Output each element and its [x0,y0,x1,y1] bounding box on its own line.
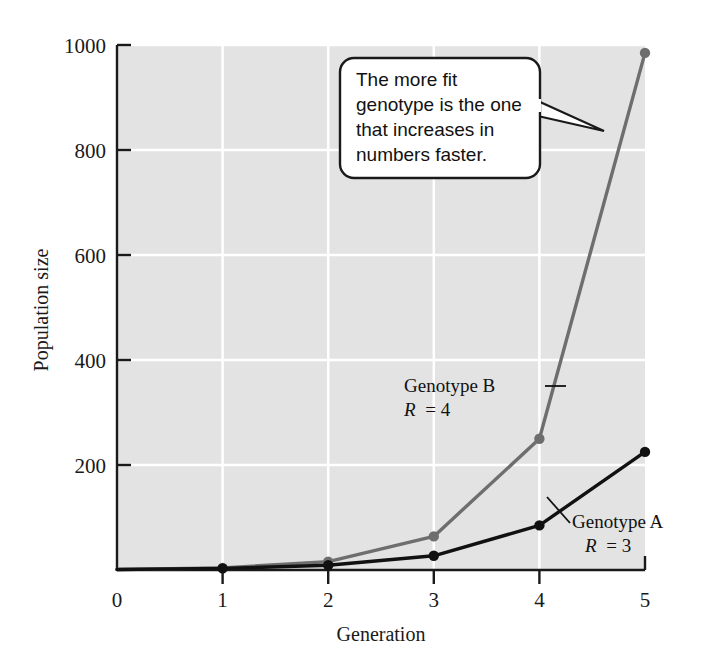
genotype-a-label-name: Genotype A [572,511,664,532]
genotype-b-label-name: Genotype B [404,375,495,396]
genotype-b-rate-value: = 4 [425,399,450,420]
genotype-a-rate: R = 3 [584,535,631,556]
data-point [640,447,650,457]
data-point [640,48,650,58]
x-tick-label-2: 2 [323,588,334,612]
population-growth-chart: 1000 800 600 400 200 0 1 2 3 4 5 Populat… [0,0,703,670]
y-tick-label-800: 800 [75,139,107,163]
genotype-b-rate: R = 4 [403,399,451,420]
x-tick-label-1: 1 [217,588,228,612]
genotype-b-label: Genotype B [404,375,495,396]
data-point [534,520,544,530]
y-tick-label-400: 400 [75,349,107,373]
data-point [534,434,544,444]
y-tick-label-1000: 1000 [64,34,106,58]
x-tick-label-4: 4 [534,588,545,612]
x-tick-label-3: 3 [429,588,440,612]
genotype-a-label: Genotype A [572,511,664,532]
callout-line-1: The more fit [356,69,458,90]
data-point [429,531,439,541]
genotype-a-rate-symbol: R [584,535,597,556]
callout-line-3: that increases in [356,119,494,140]
data-point [217,563,227,573]
y-tick-label-600: 600 [75,244,107,268]
callout-line-2: genotype is the one [356,94,522,115]
callout-tail-join-mask [533,99,541,112]
callout-line-4: numbers faster. [356,144,487,165]
genotype-b-rate-symbol: R [403,399,416,420]
data-point [429,551,439,561]
x-axis-title: Generation [337,623,426,645]
y-axis-title: Population size [30,248,53,371]
x-tick-label-5: 5 [640,588,651,612]
genotype-a-rate-value: = 3 [606,535,631,556]
x-tick-label-0: 0 [112,588,123,612]
y-tick-label-200: 200 [75,454,107,478]
data-point [323,560,333,570]
chart-figure: 1000 800 600 400 200 0 1 2 3 4 5 Populat… [0,0,703,670]
